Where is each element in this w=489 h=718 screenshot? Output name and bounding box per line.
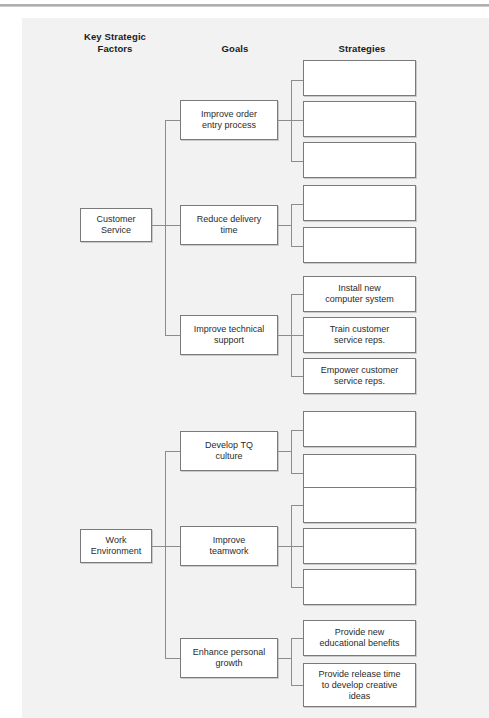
connector-we-g3-trunk [291,638,292,685]
connector-cs-g2-trunk [291,204,292,246]
goal-node-reduce-delivery-time[interactable]: Reduce delivery time [180,205,278,245]
connector-we-goal1-stub [165,451,180,452]
connector-we-factor-stub [152,546,165,547]
goal-label-line-2: entry process [201,120,257,131]
column-header-goals: Goals [180,43,290,55]
column-header-strategies: Strategies [300,43,424,55]
strategy-label-line-2: educational benefits [319,638,399,649]
connector-cs-g3-s3 [291,376,303,377]
factor-node-customer-service[interactable]: Customer Service [80,208,152,242]
factor-label-line-2: Environment [91,546,142,557]
connector-we-g1-s2 [291,473,303,474]
tree-diagram-panel: Key Strategic Factors Goals Strategies [22,18,489,718]
connector-we-g3-s2 [291,685,303,686]
header-line-1: Key Strategic [60,31,170,43]
strategy-node-cs-g3-s3[interactable]: Empower customer service reps. [303,358,416,394]
goal-node-enhance-personal-growth[interactable]: Enhance personal growth [180,638,278,678]
connector-we-g2-s3 [291,587,303,588]
connector-cs-g1-s1 [291,80,303,81]
connector-cs-goal2-stub [165,225,180,226]
strategy-label-line-2: computer system [325,294,394,305]
strategy-node-we-g2-s1[interactable] [303,487,416,523]
goal-label-line-1: Improve order [201,109,257,120]
strategy-node-cs-g3-s1[interactable]: Install new computer system [303,276,416,312]
strategy-label-line-1: Install new [325,283,394,294]
strategy-node-we-g1-s1[interactable] [303,411,416,447]
goal-label-line-2: growth [193,658,266,669]
goal-label-line-1: Reduce delivery [197,214,262,225]
goal-node-develop-tq-culture[interactable]: Develop TQ culture [180,431,278,471]
strategy-node-we-g2-s2[interactable] [303,528,416,564]
strategy-node-cs-g1-s1[interactable] [303,60,416,96]
connector-we-goal2-stub [165,546,180,547]
goal-node-improve-technical-support[interactable]: Improve technical support [180,315,278,355]
connector-cs-trunk [165,120,166,335]
connector-cs-g2-s2 [291,246,303,247]
strategy-node-cs-g3-s2[interactable]: Train customer service reps. [303,317,416,353]
connector-we-g3-s1 [291,638,303,639]
strategy-node-we-g3-s1[interactable]: Provide new educational benefits [303,620,416,656]
strategy-label-line-1: Provide new [319,627,399,638]
goal-node-improve-teamwork[interactable]: Improve teamwork [180,526,278,566]
connector-cs-factor-stub [152,225,165,226]
strategy-node-cs-g2-s1[interactable] [303,185,416,221]
connector-cs-g3-out [278,335,291,336]
strategy-node-cs-g1-s3[interactable] [303,142,416,178]
connector-cs-g1-out [278,120,291,121]
strategy-label-line-1: Train customer [330,324,390,335]
connector-cs-goal3-stub [165,335,180,336]
strategy-label-line-2: service reps. [321,376,399,387]
factor-label-line-1: Work [91,535,142,546]
strategy-node-cs-g1-s2[interactable] [303,101,416,137]
strategy-label-line-2: service reps. [330,335,390,346]
connector-we-g1-s1 [291,430,303,431]
strategy-node-we-g2-s3[interactable] [303,569,416,605]
connector-we-trunk [165,451,166,658]
top-divider-rule [0,4,489,7]
goal-node-improve-order-entry[interactable]: Improve order entry process [180,100,278,140]
goal-label-line-2: support [194,335,265,346]
strategy-label-line-3: ideas [318,691,400,702]
factor-label-line-1: Customer [96,214,135,225]
connector-cs-g2-s1 [291,204,303,205]
strategy-label-line-1: Provide release time [318,669,400,680]
connector-cs-goal1-stub [165,120,180,121]
strategy-node-we-g1-s2[interactable] [303,454,416,490]
factor-label-line-2: Service [96,225,135,236]
goal-label-line-2: teamwork [209,546,248,557]
goal-label-line-1: Improve [209,535,248,546]
strategy-node-cs-g2-s2[interactable] [303,227,416,263]
connector-cs-g1-s3 [291,161,303,162]
goal-label-line-1: Enhance personal [193,647,266,658]
goal-label-line-2: time [197,225,262,236]
connector-cs-g3-s1 [291,294,303,295]
strategy-node-we-g3-s2[interactable]: Provide release time to develop creative… [303,663,416,707]
goal-label-line-1: Develop TQ [205,440,253,451]
factor-node-work-environment[interactable]: Work Environment [80,529,152,563]
strategy-label-line-2: to develop creative [318,680,400,691]
connector-cs-g3-s2 [291,335,303,336]
connector-we-g3-out [278,658,291,659]
connector-cs-g2-out [278,225,291,226]
connector-we-g2-s1 [291,505,303,506]
connector-we-g2-out [278,546,291,547]
connector-we-g1-out [278,451,291,452]
connector-cs-g1-s2 [291,120,303,121]
connector-we-goal3-stub [165,658,180,659]
column-header-key-strategic-factors: Key Strategic Factors [60,31,170,55]
goal-label-line-2: culture [205,451,253,462]
goal-label-line-1: Improve technical [194,324,265,335]
connector-we-g2-s2 [291,546,303,547]
connector-we-g1-trunk [291,430,292,473]
strategy-label-line-1: Empower customer [321,365,399,376]
header-line-2: Factors [60,43,170,55]
